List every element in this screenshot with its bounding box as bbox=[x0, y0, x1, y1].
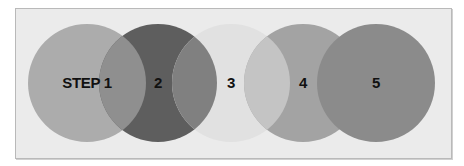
step-4-label: 4 bbox=[299, 74, 308, 91]
step-1-label: STEP 1 bbox=[62, 74, 112, 91]
step-3-label: 3 bbox=[227, 74, 235, 91]
step-2-label: 2 bbox=[154, 74, 162, 91]
step-5-label: 5 bbox=[372, 74, 380, 91]
step-circles-diagram: STEP 1 2 3 4 5 bbox=[0, 0, 464, 166]
